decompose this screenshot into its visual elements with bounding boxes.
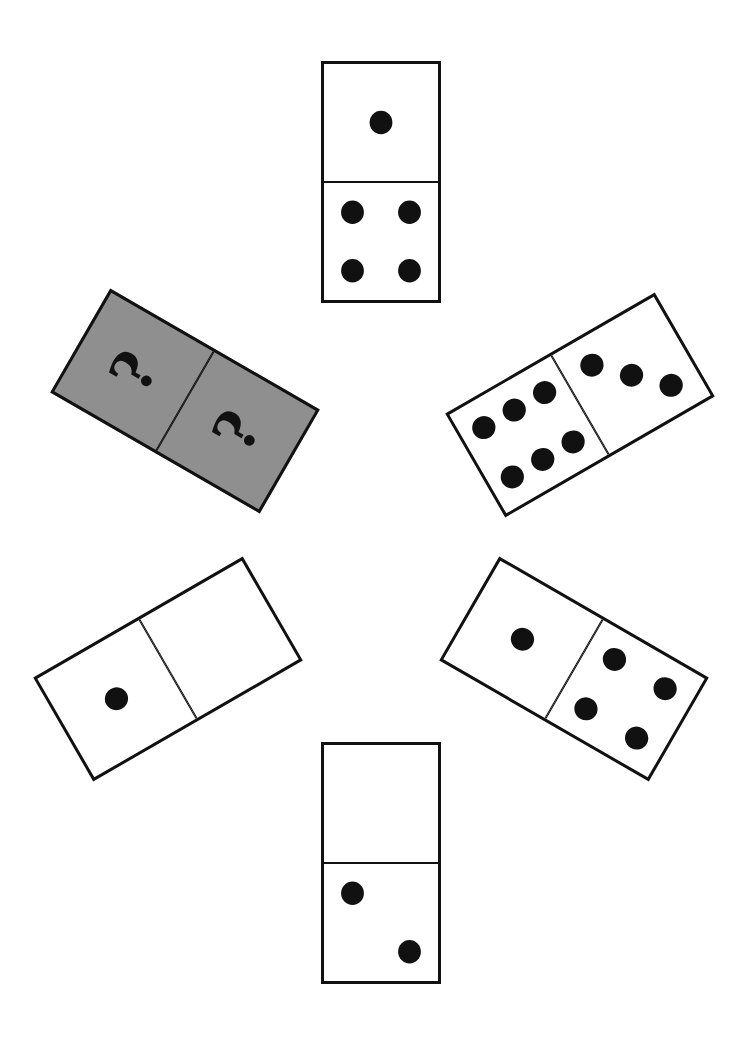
domino-half-bottom	[324, 863, 438, 981]
pip-icon	[649, 673, 681, 704]
pip-icon	[570, 693, 602, 724]
domino-lower-right	[439, 557, 709, 782]
pip-icon	[527, 444, 559, 475]
pip-icon	[507, 624, 539, 655]
pip-icon	[341, 259, 364, 282]
domino-half-top	[324, 745, 438, 863]
pip-icon	[341, 201, 364, 224]
pip-icon	[101, 683, 133, 714]
pip-icon	[655, 370, 687, 401]
domino-half-top	[324, 64, 438, 182]
pip-icon	[398, 259, 421, 282]
pips-4	[324, 183, 438, 300]
pip-icon	[529, 377, 561, 408]
domino-top	[321, 61, 441, 303]
domino-upper-left: ??	[50, 289, 320, 514]
domino-bottom	[321, 742, 441, 984]
pip-icon	[398, 940, 421, 963]
pip-icon	[398, 201, 421, 224]
domino-half-bottom	[324, 182, 438, 300]
pip-icon	[599, 644, 631, 675]
pip-icon	[557, 426, 589, 457]
pip-icon	[341, 882, 364, 905]
pip-icon	[616, 360, 648, 391]
pips-2	[324, 864, 438, 981]
pip-icon	[498, 394, 530, 425]
pip-icon	[468, 412, 500, 443]
pips-1	[324, 64, 438, 181]
domino-upper-right	[445, 293, 715, 518]
pip-icon	[621, 722, 653, 753]
domino-lower-left	[33, 557, 303, 782]
pip-icon	[370, 111, 393, 134]
pip-icon	[496, 461, 528, 492]
pips-0	[324, 745, 438, 862]
pip-icon	[576, 349, 608, 380]
